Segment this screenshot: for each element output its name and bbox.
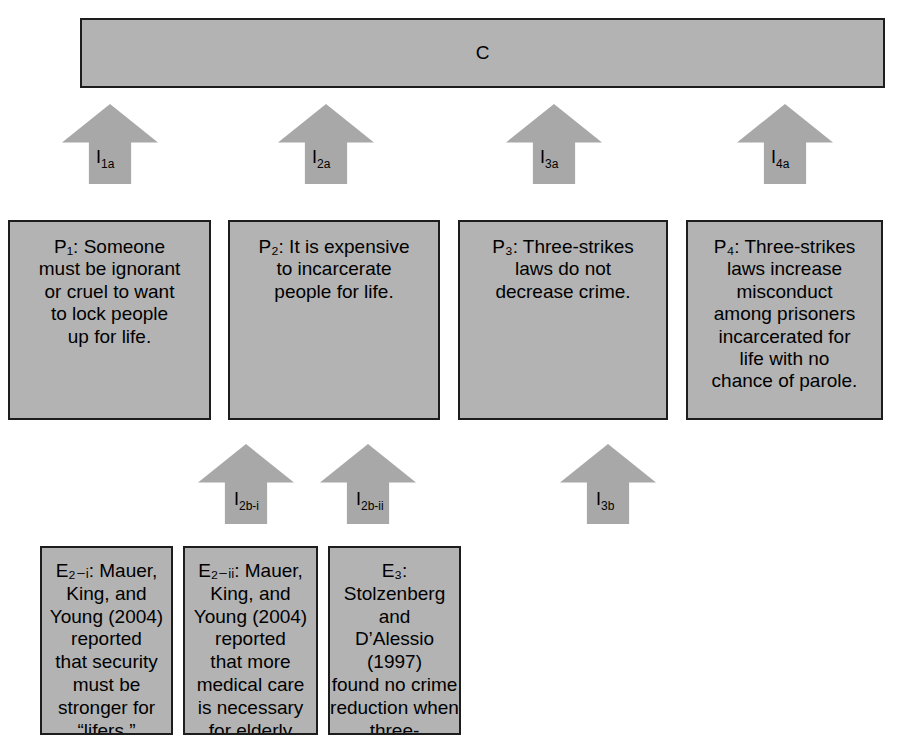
claim-box-C: C — [80, 18, 885, 88]
premise-text-P2: P₂: It is expensive to incarcerate peopl… — [230, 236, 438, 303]
inference-arrow-I3b: I3b — [560, 444, 656, 524]
premise-box-P1: P₁: Someone must be ignorant or cruel to… — [8, 220, 211, 420]
inference-arrow-I4a: I4a — [737, 104, 833, 184]
evidence-box-E3: E₃: Stolzenberg and D’Alessio (1997) fou… — [328, 546, 461, 735]
inference-arrow-subscript-I2b-i: 2b-i — [239, 499, 259, 513]
inference-arrow-subscript-I4a: 4a — [776, 157, 789, 171]
inference-arrow-I3a: I3a — [506, 104, 602, 184]
up-arrow-icon — [62, 104, 158, 184]
inference-arrow-label-I2a: I2a — [312, 148, 330, 170]
inference-arrow-subscript-I2a: 2a — [317, 157, 330, 171]
inference-arrow-label-I3a: I3a — [540, 148, 558, 170]
inference-arrow-I2b-i: I2b-i — [198, 444, 294, 524]
inference-arrow-I2b-ii: I2b-ii — [320, 444, 416, 524]
inference-arrow-subscript-I1a: 1a — [101, 157, 114, 171]
up-arrow-icon — [506, 104, 602, 184]
premise-box-P4: P₄: Three-strikes laws increase miscondu… — [686, 220, 883, 420]
inference-arrow-subscript-I3a: 3a — [545, 157, 558, 171]
claim-label: C — [476, 42, 490, 64]
inference-arrow-label-I3b: I3b — [596, 490, 614, 512]
inference-arrow-label-I2b-ii: I2b-ii — [356, 490, 384, 512]
premise-box-P2: P₂: It is expensive to incarcerate peopl… — [228, 220, 440, 420]
up-arrow-icon — [278, 104, 374, 184]
premise-text-P4: P₄: Three-strikes laws increase miscondu… — [688, 236, 881, 393]
inference-arrow-subscript-I2b-ii: 2b-ii — [361, 499, 384, 513]
inference-arrow-I1a: I1a — [62, 104, 158, 184]
premise-text-P3: P₃: Three-strikes laws do not decrease c… — [460, 236, 666, 303]
evidence-text-E2-i: E₂₋ᵢ: Mauer, King, and Young (2004) repo… — [42, 560, 171, 735]
premise-text-P1: P₁: Someone must be ignorant or cruel to… — [10, 236, 209, 348]
inference-arrow-label-I2b-i: I2b-i — [234, 490, 259, 512]
inference-arrow-subscript-I3b: 3b — [601, 499, 614, 513]
scan-edge-artifact — [0, 748, 915, 752]
inference-arrow-label-I4a: I4a — [771, 148, 789, 170]
argument-diagram: C I1a I2a I3a I4a P₁: Someone must be ig… — [0, 0, 915, 752]
inference-arrow-label-I1a: I1a — [96, 148, 114, 170]
evidence-box-E2-i: E₂₋ᵢ: Mauer, King, and Young (2004) repo… — [40, 546, 173, 735]
premise-box-P3: P₃: Three-strikes laws do not decrease c… — [458, 220, 668, 420]
evidence-text-E3: E₃: Stolzenberg and D’Alessio (1997) fou… — [330, 560, 459, 735]
evidence-box-E2-ii: E₂₋ᵢᵢ: Mauer, King, and Young (2004) rep… — [183, 546, 318, 735]
inference-arrow-I2a: I2a — [278, 104, 374, 184]
up-arrow-icon — [737, 104, 833, 184]
evidence-text-E2-ii: E₂₋ᵢᵢ: Mauer, King, and Young (2004) rep… — [185, 560, 316, 735]
